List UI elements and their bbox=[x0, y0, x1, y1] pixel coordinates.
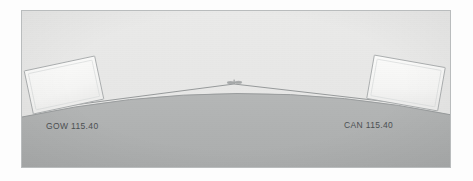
station-label-right: CAN 115.40 bbox=[344, 120, 393, 130]
station-label-left: GOW 115.40 bbox=[46, 121, 98, 131]
scene-illustration bbox=[22, 11, 451, 168]
figure-root: GOW 115.40 CAN 115.40 bbox=[0, 0, 473, 181]
aircraft-icon bbox=[227, 80, 242, 85]
figure-frame: GOW 115.40 CAN 115.40 bbox=[21, 10, 451, 168]
